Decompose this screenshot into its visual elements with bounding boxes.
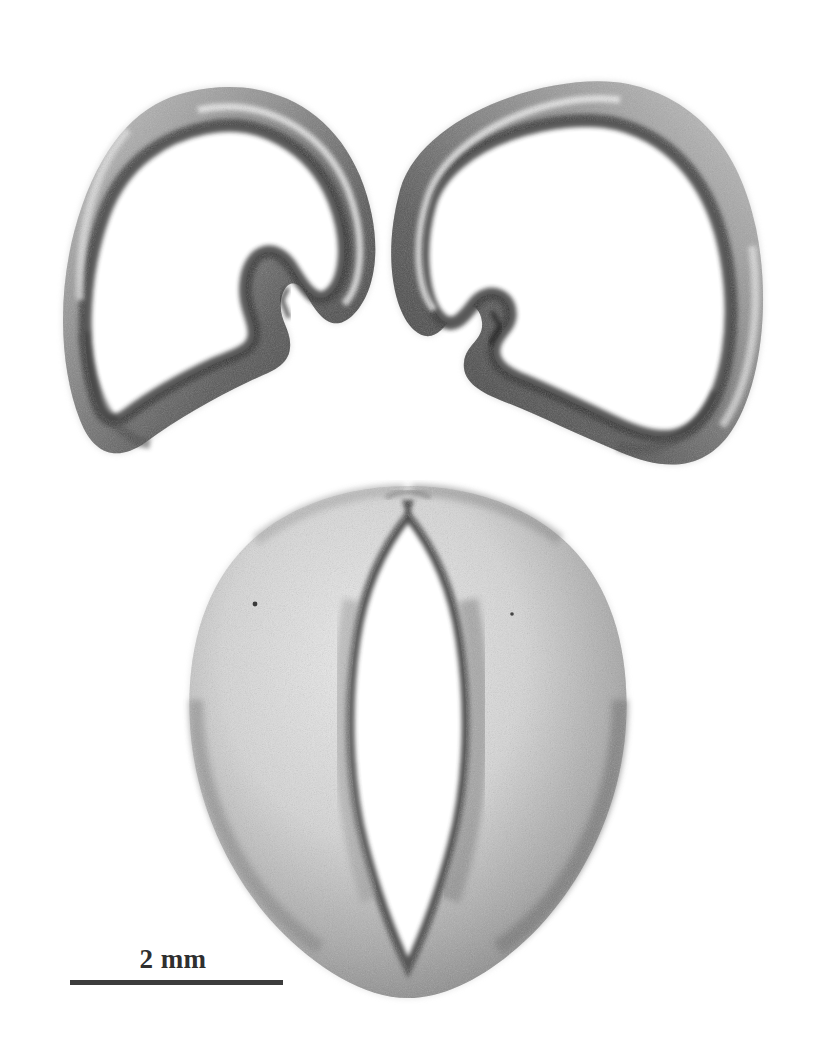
specimen-figure xyxy=(0,0,821,1056)
scale-bar: 2 mm xyxy=(62,942,292,992)
figure-plate: 2 mm xyxy=(0,0,821,1056)
scale-bar-line xyxy=(70,980,283,985)
specimen-lower-whole xyxy=(180,470,640,1010)
surface-speck xyxy=(253,602,258,607)
specimen-upper-left-valve xyxy=(40,60,400,480)
surface-speck xyxy=(510,612,514,616)
scale-bar-label: 2 mm xyxy=(62,942,284,976)
specimen-upper-right-valve xyxy=(380,50,780,490)
